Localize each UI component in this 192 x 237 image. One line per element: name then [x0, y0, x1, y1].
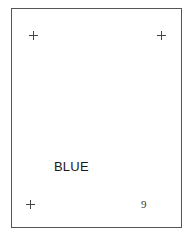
stimulus-card: BLUE 9 [11, 8, 182, 228]
plus-icon [157, 31, 166, 40]
plus-icon [26, 200, 35, 209]
color-word: BLUE [54, 160, 89, 173]
card-number: 9 [141, 199, 147, 210]
plus-icon [29, 31, 38, 40]
